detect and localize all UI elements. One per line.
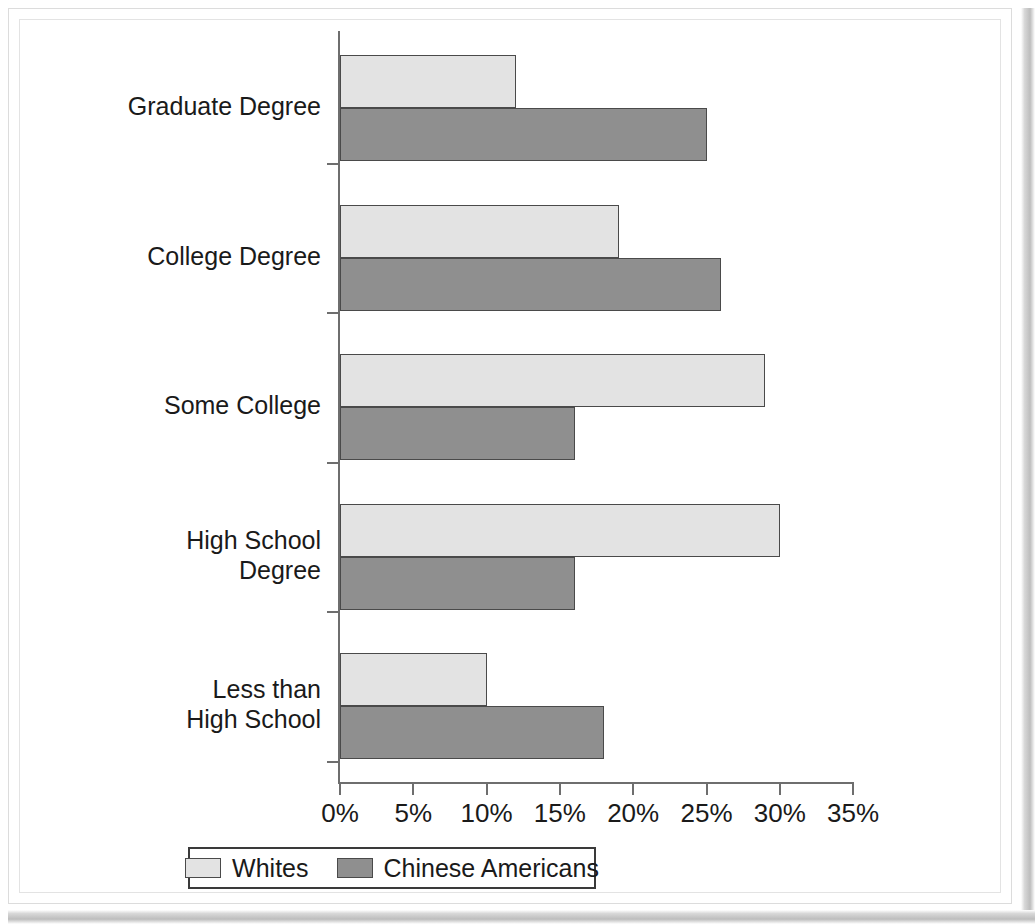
x-axis-tick	[852, 784, 854, 795]
x-axis-tick-label: 15%	[534, 798, 586, 829]
legend-entry-whites[interactable]: Whites	[185, 854, 308, 883]
category-label: College Degree	[147, 241, 321, 271]
x-axis-tick-label: 0%	[321, 798, 359, 829]
chart-page: 0%5%10%15%20%25%30%35%Graduate DegreeCol…	[0, 0, 1035, 924]
bar-chinese-americans	[340, 407, 575, 460]
x-axis-tick	[412, 784, 414, 795]
y-axis-tick	[327, 611, 339, 613]
x-axis-tick	[632, 784, 634, 795]
x-axis-tick-label: 30%	[754, 798, 806, 829]
category-label: Some College	[164, 390, 321, 420]
bar-chinese-americans	[340, 258, 721, 311]
category-label: Less than High School	[186, 674, 321, 734]
x-axis-tick-label: 35%	[827, 798, 879, 829]
legend-swatch-chinese-americans	[337, 858, 373, 878]
y-axis-tick	[327, 163, 339, 165]
y-axis-tick	[327, 312, 339, 314]
bar-chinese-americans	[340, 108, 707, 161]
bar-chinese-americans	[340, 557, 575, 610]
legend-swatch-whites	[185, 858, 221, 878]
x-axis-tick-label: 10%	[461, 798, 513, 829]
y-axis-tick	[327, 761, 339, 763]
x-axis-tick	[486, 784, 488, 795]
x-axis-tick	[339, 784, 341, 795]
x-axis-tick	[779, 784, 781, 795]
x-axis-tick	[559, 784, 561, 795]
legend-entry-chinese-americans[interactable]: Chinese Americans	[337, 854, 599, 883]
legend-label-whites: Whites	[232, 854, 308, 883]
bar-chinese-americans	[340, 706, 604, 759]
x-axis-tick-label: 5%	[395, 798, 433, 829]
x-axis-tick-label: 20%	[607, 798, 659, 829]
bar-whites	[340, 504, 780, 557]
category-label: High School Degree	[186, 525, 321, 585]
bar-whites	[340, 205, 619, 258]
category-label: Graduate Degree	[128, 91, 321, 121]
bar-chart-plot: 0%5%10%15%20%25%30%35%Graduate DegreeCol…	[9, 9, 1013, 905]
page-shadow-right	[1021, 8, 1035, 924]
chart-card: 0%5%10%15%20%25%30%35%Graduate DegreeCol…	[8, 8, 1012, 904]
x-axis-tick	[706, 784, 708, 795]
bar-whites	[340, 354, 765, 407]
legend-label-chinese-americans: Chinese Americans	[384, 854, 599, 883]
page-shadow-bottom	[8, 910, 1035, 924]
bar-whites	[340, 653, 487, 706]
y-axis-tick	[327, 462, 339, 464]
bar-whites	[340, 55, 516, 108]
chart-legend: Whites Chinese Americans	[188, 847, 596, 889]
x-axis-tick-label: 25%	[680, 798, 732, 829]
x-axis-line	[338, 782, 854, 784]
